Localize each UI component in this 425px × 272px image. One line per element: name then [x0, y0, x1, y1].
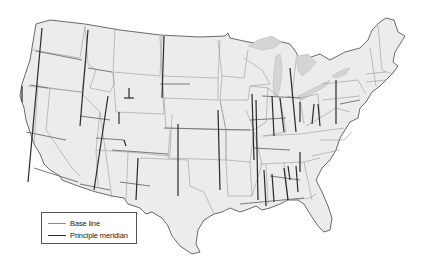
base-line-swatch	[48, 223, 66, 224]
legend-item-base-line: Base line	[48, 218, 100, 228]
legend-item-principal-meridian: Principle meridian	[48, 230, 128, 240]
legend: Base line Principle meridian	[41, 212, 137, 244]
legend-label-principal-meridian: Principle meridian	[70, 231, 128, 240]
legend-label-base-line: Base line	[70, 219, 100, 228]
meridian-line-swatch	[48, 235, 66, 236]
